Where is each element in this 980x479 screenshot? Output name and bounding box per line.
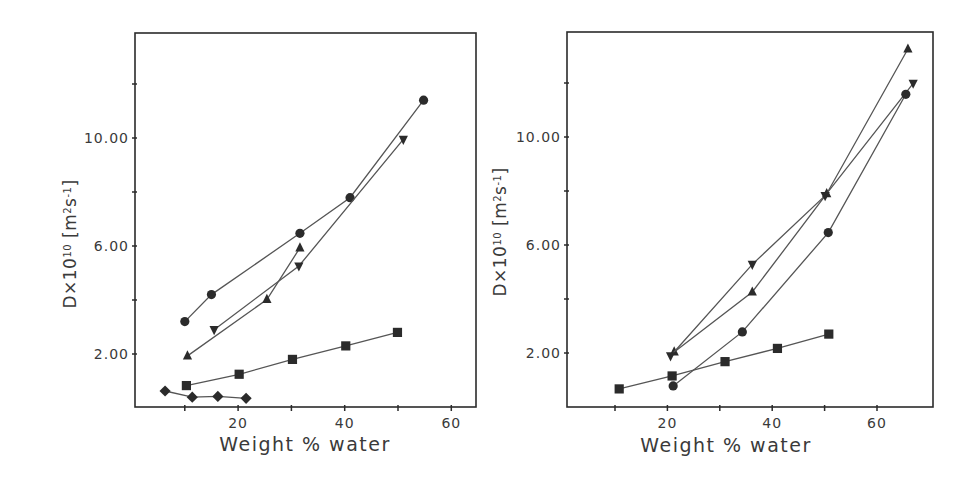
chart-canvas: 2.006.0010.00204060Weight % waterD×1010 … [0,0,980,479]
series-line [674,49,908,352]
y-tick-label: 2.00 [94,346,129,362]
plot-frame [567,32,933,407]
x-tick-label: 60 [441,415,461,431]
x-tick-label: 60 [867,415,887,431]
square-marker-icon [235,370,244,379]
circle-marker-icon [669,381,678,390]
series-line [214,139,403,329]
series-line [671,83,914,356]
diamond-marker-icon [187,392,198,403]
square-marker-icon [615,384,624,393]
series-diamond [159,385,251,403]
circle-marker-icon [901,90,910,99]
series-triangle-up [670,43,913,355]
y-tick-label: 2.00 [526,345,561,361]
square-marker-icon [341,341,350,350]
x-tick-label: 40 [335,415,355,431]
x-axis-title: Weight % water [640,434,811,456]
triangle-up-marker-icon [183,350,192,359]
square-marker-icon [824,330,833,339]
square-marker-icon [288,355,297,364]
diamond-marker-icon [212,391,223,402]
diamond-marker-icon [159,385,170,396]
square-marker-icon [668,371,677,380]
series-triangle-down [666,80,918,362]
y-tick-label: 10.00 [84,130,129,146]
square-marker-icon [182,381,191,390]
x-tick-label: 40 [762,415,782,431]
circle-marker-icon [738,327,747,336]
y-axis-title: D×1010 [m2s-1] [60,179,80,308]
series-line [185,100,424,321]
series-triangle-down [210,136,408,336]
diamond-marker-icon [240,393,251,404]
circle-marker-icon [824,228,833,237]
square-marker-icon [773,344,782,353]
circle-marker-icon [207,290,216,299]
plot-frame [135,33,476,407]
series-triangle-up [183,242,305,359]
circle-marker-icon [295,229,304,238]
x-tick-label: 20 [657,415,677,431]
series-circle [180,96,428,327]
series-line [165,391,246,398]
circle-marker-icon [180,317,189,326]
circle-marker-icon [419,96,428,105]
y-tick-label: 6.00 [94,238,129,254]
triangle-up-marker-icon [295,242,304,251]
series-square [615,330,834,394]
figure: 2.006.0010.00204060Weight % waterD×1010 … [0,0,980,479]
x-tick-label: 20 [228,415,248,431]
square-marker-icon [393,328,402,337]
y-axis-title: D×1010 [m2s-1] [490,167,510,296]
triangle-down-marker-icon [294,262,303,271]
left-chart-panel: 2.006.0010.00204060Weight % waterD×1010 … [60,33,476,455]
square-marker-icon [720,357,729,366]
right-chart-panel: 2.006.0010.00204060Weight % waterD×1010 … [490,32,933,456]
y-tick-label: 10.00 [516,129,561,145]
x-axis-title: Weight % water [219,433,390,455]
triangle-down-marker-icon [666,352,675,361]
y-tick-label: 6.00 [526,237,561,253]
triangle-up-marker-icon [903,43,912,52]
